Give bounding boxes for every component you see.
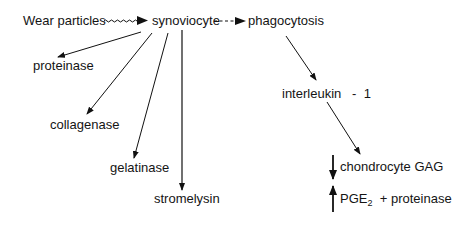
node-collagenase: collagenase: [50, 117, 119, 132]
pge-label: PGE: [340, 191, 367, 206]
arrow-synoviocyte-to-gelatinase: [134, 33, 168, 158]
arrow-synoviocyte-to-proteinase: [58, 32, 141, 57]
node-pge2-proteinase: PGE2 + proteinase: [340, 191, 452, 211]
arrow-interleukin-to-effects: [327, 102, 360, 154]
node-interleukin-1: interleukin - 1: [282, 86, 371, 101]
node-phagocytosis: phagocytosis: [248, 13, 324, 28]
node-synoviocyte: synoviocyte: [152, 13, 220, 28]
arrow-phagocytosis-to-interleukin: [286, 36, 316, 80]
pge-rest-label: + proteinase: [372, 191, 451, 206]
node-stromelysin: stromelysin: [154, 191, 220, 206]
node-proteinase: proteinase: [33, 58, 94, 73]
wavy-arrow-wear-to-synoviocyte: [104, 16, 148, 25]
node-wear-particles: Wear particles: [23, 13, 106, 28]
node-chondrocyte-gag: chondrocyte GAG: [340, 159, 443, 174]
node-gelatinase: gelatinase: [110, 160, 169, 175]
